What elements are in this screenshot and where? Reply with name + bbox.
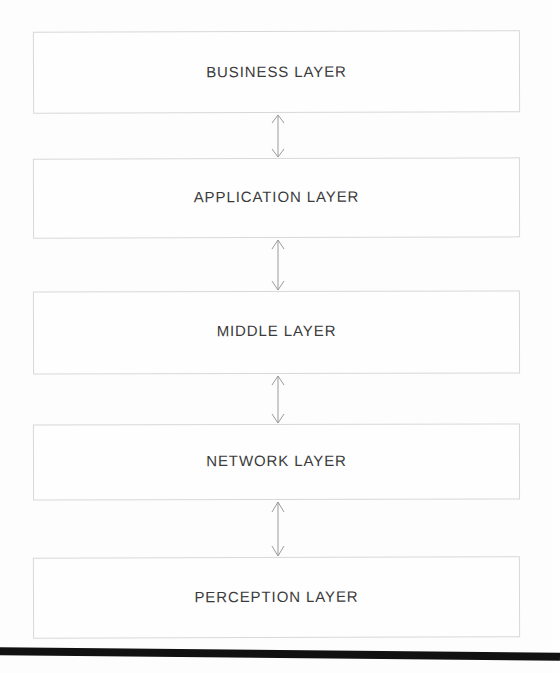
layer-box-middle: MIDDLE LAYER: [33, 290, 520, 374]
double-headed-vertical-arrow-icon-3: [262, 373, 294, 426]
layer-box-network: NETWORK LAYER: [33, 423, 520, 500]
layer-label-application: APPLICATION LAYER: [194, 187, 360, 204]
layer-box-perception: PERCEPTION LAYER: [33, 556, 520, 639]
layer-box-business: BUSINESS LAYER: [33, 30, 520, 114]
layer-label-network: NETWORK LAYER: [206, 451, 347, 468]
double-headed-vertical-arrow-icon-2: [262, 237, 294, 293]
double-headed-vertical-arrow-icon-4: [262, 499, 294, 559]
page-edge-bar: [0, 647, 560, 660]
layer-label-perception: PERCEPTION LAYER: [194, 587, 358, 605]
layer-label-middle: MIDDLE LAYER: [217, 322, 337, 339]
double-headed-vertical-arrow-icon-1: [262, 112, 294, 160]
layer-label-business: BUSINESS LAYER: [206, 62, 347, 79]
layer-box-application: APPLICATION LAYER: [33, 157, 520, 238]
